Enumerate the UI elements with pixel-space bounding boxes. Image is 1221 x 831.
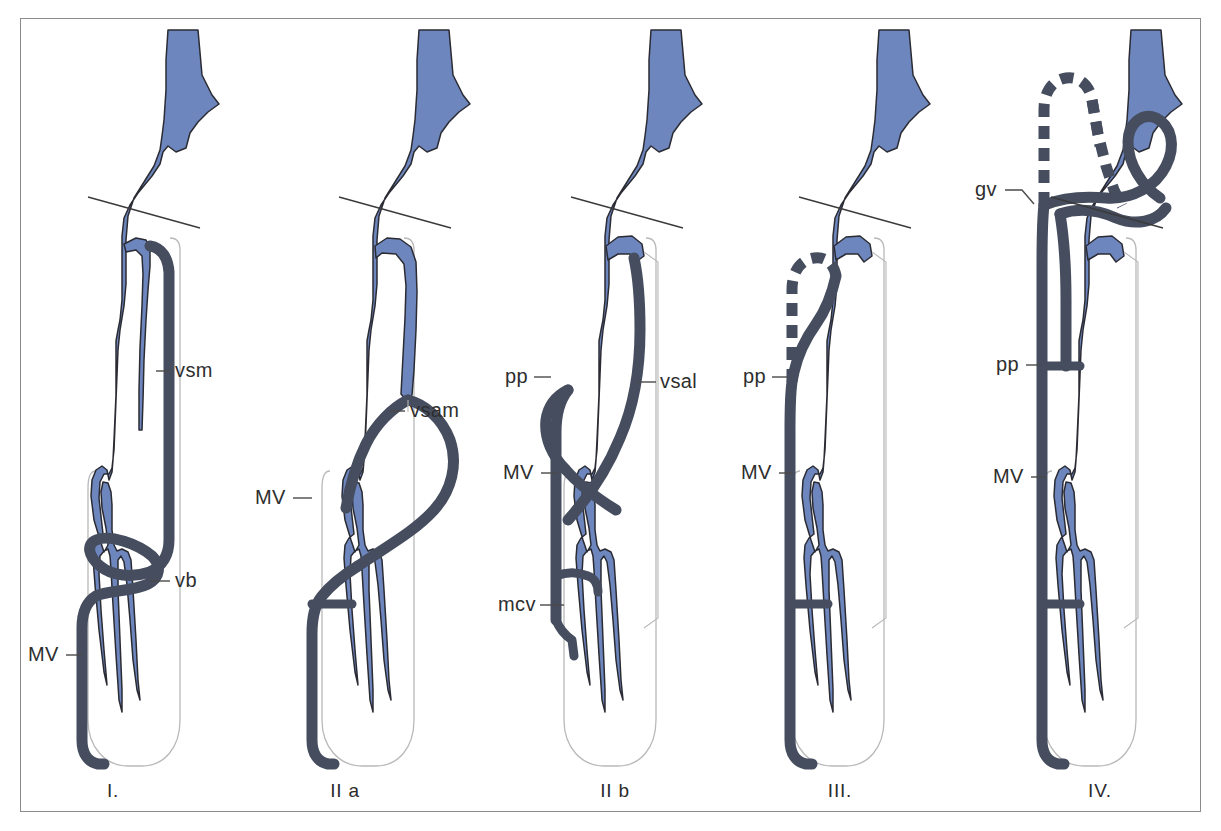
panel-2a-graphic <box>293 30 470 766</box>
superficial-vein-left-trunk-2b <box>556 390 568 620</box>
superficial-vein-dashed-gv-right <box>1092 100 1122 206</box>
leg-outline-2a <box>322 238 414 766</box>
label-mv-panel4: MV <box>993 465 1024 487</box>
deep-vein-accessory-2a <box>375 238 417 400</box>
panel-3-graphic <box>772 30 930 766</box>
deep-vein-tributary <box>124 238 150 430</box>
panel-caption-4: IV. <box>1088 780 1112 801</box>
panel-caption-2a: II a <box>330 780 360 801</box>
panel-caption-3: III. <box>828 780 852 801</box>
label-vsm: vsm <box>175 359 213 381</box>
cut-line-2b <box>571 197 683 228</box>
superficial-connector-mcv <box>556 573 598 592</box>
deep-vein-trunk-4 <box>1054 30 1182 712</box>
label-mv-panel2b: MV <box>503 461 534 483</box>
panel-4-graphic <box>1005 30 1182 766</box>
panel-2b-graphic <box>534 30 702 766</box>
superficial-vein-vsm <box>150 246 169 572</box>
anatomy-diagram: vsm vb MV I. vsam MV II a <box>0 0 1221 831</box>
label-mv-panel2a: MV <box>255 486 286 508</box>
cut-line-2a <box>339 197 451 228</box>
label-pp-panel4: pp <box>996 353 1019 375</box>
superficial-mcv-stub <box>556 620 574 656</box>
leader-gv <box>1005 190 1034 204</box>
label-vsam: vsam <box>410 399 459 421</box>
deep-vein-trunk-3 <box>802 30 930 712</box>
figure-root: vsm vb MV I. vsam MV II a <box>0 0 1221 831</box>
panel-caption-1: I. <box>107 780 119 801</box>
cut-line-1 <box>88 197 200 228</box>
label-mcv: mcv <box>498 593 536 615</box>
panel-1-graphic <box>66 30 219 766</box>
label-pp-panel3: pp <box>743 365 766 387</box>
label-vb: vb <box>175 569 197 591</box>
label-vsal: vsal <box>660 370 697 392</box>
superficial-vein-branch-4 <box>1060 214 1066 366</box>
deep-vein-hook-4 <box>1086 236 1124 262</box>
superficial-vein-dashed-gv-left <box>1044 78 1100 205</box>
label-pp-panel2b: pp <box>505 365 528 387</box>
label-mv-panel1: MV <box>28 643 59 665</box>
panel-caption-2b: II b <box>600 780 630 801</box>
label-gv: gv <box>975 178 997 200</box>
superficial-vein-gv-loop-inner <box>1060 208 1166 222</box>
label-mv-panel3: MV <box>741 461 772 483</box>
cut-line-3 <box>799 197 911 228</box>
deep-vein-hook-3 <box>834 236 872 262</box>
